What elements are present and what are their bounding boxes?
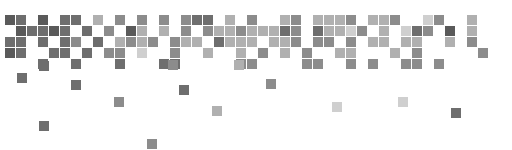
mosaic-square [60,48,70,58]
mosaic-square [280,48,290,58]
scattered-square [234,60,244,70]
mosaic-square [49,48,59,58]
mosaic-square [412,59,422,69]
mosaic-square [181,26,191,36]
mosaic-square [324,37,334,47]
mosaic-square [16,15,26,25]
mosaic-square [379,26,389,36]
mosaic-square [445,26,455,36]
mosaic-square [38,37,48,47]
mosaic-square [225,15,235,25]
mosaic-square [346,15,356,25]
mosaic-square [379,15,389,25]
scattered-square [39,61,49,71]
scattered-square [212,106,222,116]
mosaic-square [445,37,455,47]
mosaic-square [49,26,59,36]
mosaic-square [203,48,213,58]
mosaic-square [313,26,323,36]
mosaic-square [401,59,411,69]
mosaic-square [313,15,323,25]
mosaic-square [324,15,334,25]
mosaic-square [412,26,422,36]
mosaic-square [368,59,378,69]
mosaic-square [82,48,92,58]
mosaic-square [346,48,356,58]
mosaic-square [225,37,235,47]
mosaic-square [467,26,477,36]
scattered-square [451,108,461,118]
mosaic-square [137,48,147,58]
mosaic-square [247,37,257,47]
mosaic-square [16,48,26,58]
mosaic-square [192,15,202,25]
mosaic-square [390,48,400,58]
mosaic-square [5,37,15,47]
mosaic-square [258,48,268,58]
mosaic-square [236,37,246,47]
mosaic-square [192,37,202,47]
scattered-square [114,97,124,107]
mosaic-square [137,37,147,47]
mosaic-square [225,26,235,36]
mosaic-square [258,26,268,36]
mosaic-square [313,37,323,47]
scattered-square [266,79,276,89]
scattered-square [332,102,342,112]
mosaic-square [170,37,180,47]
mosaic-square [16,37,26,47]
mosaic-square [335,48,345,58]
mosaic-square [27,26,37,36]
mosaic-square [236,26,246,36]
mosaic-square [324,26,334,36]
mosaic-square [71,59,81,69]
mosaic-square [291,15,301,25]
mosaic-square [401,37,411,47]
mosaic-square [137,26,147,36]
mosaic-square [247,15,257,25]
mosaic-square [181,15,191,25]
mosaic-square [335,26,345,36]
mosaic-square [379,37,389,47]
scattered-square [147,139,157,149]
mosaic-square [357,26,367,36]
scattered-square [179,85,189,95]
mosaic-square [5,48,15,58]
mosaic-square [126,37,136,47]
mosaic-square [434,59,444,69]
mosaic-square [115,48,125,58]
mosaic-square [423,15,433,25]
mosaic-square [60,37,70,47]
mosaic-square [412,48,422,58]
mosaic-square [423,26,433,36]
mosaic-square [412,37,422,47]
mosaic-square [291,26,301,36]
mosaic-square [148,37,158,47]
mosaic-square [280,15,290,25]
mosaic-square [104,26,114,36]
mosaic-square [93,15,103,25]
mosaic-square [115,15,125,25]
mosaic-square [137,15,147,25]
scattered-square [39,121,49,131]
mosaic-square [60,26,70,36]
mosaic-square [82,26,92,36]
mosaic-square [368,37,378,47]
scattered-square [71,80,81,90]
mosaic-square [346,26,356,36]
mosaic-square [280,37,290,47]
mosaic-square [214,26,224,36]
scattered-square [398,97,408,107]
pixel-mosaic [0,0,512,150]
mosaic-square [291,37,301,47]
mosaic-square [181,37,191,47]
mosaic-square [346,59,356,69]
mosaic-square [335,15,345,25]
mosaic-square [115,59,125,69]
mosaic-square [16,26,26,36]
mosaic-square [5,15,15,25]
mosaic-square [269,37,279,47]
mosaic-square [159,15,169,25]
mosaic-square [467,15,477,25]
mosaic-square [203,15,213,25]
